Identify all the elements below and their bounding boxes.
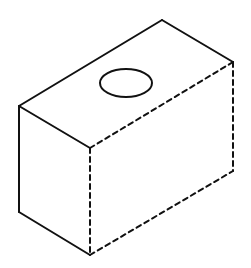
hidden-edge-top_right-front_top bbox=[90, 62, 233, 148]
hidden-edge-front_bottom-right_bottom bbox=[90, 171, 233, 255]
top-hole-ellipse bbox=[100, 69, 152, 97]
edge-left_bottom-front_bottom bbox=[19, 212, 90, 255]
edge-top_back-top_right bbox=[162, 20, 233, 62]
edge-top_left-top_back bbox=[19, 20, 162, 106]
edge-top_left-front_top bbox=[19, 106, 90, 148]
dashed-hidden-edges bbox=[90, 62, 233, 255]
isometric-box-diagram bbox=[0, 0, 251, 268]
solid-edges bbox=[19, 20, 233, 255]
